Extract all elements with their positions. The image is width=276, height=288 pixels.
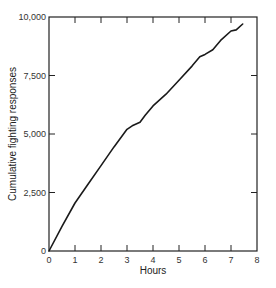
y-tick-label: 7,500 <box>23 71 46 81</box>
y-tick-label: 10,000 <box>18 12 46 22</box>
x-axis-title: Hours <box>140 265 167 276</box>
x-tick-label: 3 <box>124 255 129 265</box>
y-tick-label: 2,500 <box>23 188 46 198</box>
x-axis-ticks: 012345678 <box>46 17 259 265</box>
data-line <box>49 24 243 251</box>
x-tick-label: 6 <box>202 255 207 265</box>
plot-border <box>49 17 257 251</box>
y-tick-label: 0 <box>41 246 46 256</box>
x-tick-label: 1 <box>72 255 77 265</box>
x-tick-label: 2 <box>98 255 103 265</box>
plot-frame <box>49 17 257 251</box>
x-tick-label: 5 <box>176 255 181 265</box>
x-tick-label: 4 <box>150 255 155 265</box>
x-tick-label: 7 <box>228 255 233 265</box>
x-tick-label: 0 <box>46 255 51 265</box>
line-chart: 012345678 02,5005,0007,50010,000 Hours C… <box>0 0 276 288</box>
y-axis-ticks: 02,5005,0007,50010,000 <box>18 12 257 256</box>
x-tick-label: 8 <box>254 255 259 265</box>
y-axis-title: Cumulative fighting responses <box>7 67 18 201</box>
y-tick-label: 5,000 <box>23 129 46 139</box>
